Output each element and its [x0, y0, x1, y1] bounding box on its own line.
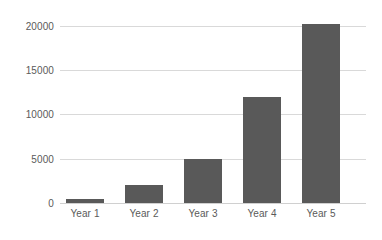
x-tick-label-year-2: Year 2: [125, 208, 163, 219]
bar-slot-year-4: [243, 26, 281, 203]
bar-year-4[interactable]: [243, 97, 281, 203]
bar-slot-year-3: [184, 26, 222, 203]
bar-year-5[interactable]: [302, 24, 340, 203]
bars-layer: [60, 26, 366, 203]
y-tick-label-0: 0: [2, 198, 54, 209]
y-tick-label-10000: 10000: [2, 109, 54, 120]
y-tick-label-20000: 20000: [2, 21, 54, 32]
x-tick-label-year-5: Year 5: [302, 208, 340, 219]
bar-slot-year-2: [125, 26, 163, 203]
bar-year-1[interactable]: [66, 199, 104, 203]
bar-year-2[interactable]: [125, 185, 163, 203]
bar-slot-year-5: [302, 26, 340, 203]
x-tick-label-year-4: Year 4: [243, 208, 281, 219]
x-tick-label-year-1: Year 1: [66, 208, 104, 219]
x-tick-label-year-3: Year 3: [184, 208, 222, 219]
bar-slot-year-1: [66, 26, 104, 203]
y-tick-label-15000: 15000: [2, 65, 54, 76]
x-axis-line: [60, 203, 366, 204]
bar-year-3[interactable]: [184, 159, 222, 203]
y-axis-tick-labels: 20000 15000 10000 5000 0: [0, 26, 54, 203]
x-axis-tick-labels: Year 1 Year 2 Year 3 Year 4 Year 5: [60, 206, 366, 226]
bar-chart: 20000 15000 10000 5000 0 Year 1 Year 2 Y…: [0, 0, 382, 240]
y-tick-label-5000: 5000: [2, 154, 54, 165]
